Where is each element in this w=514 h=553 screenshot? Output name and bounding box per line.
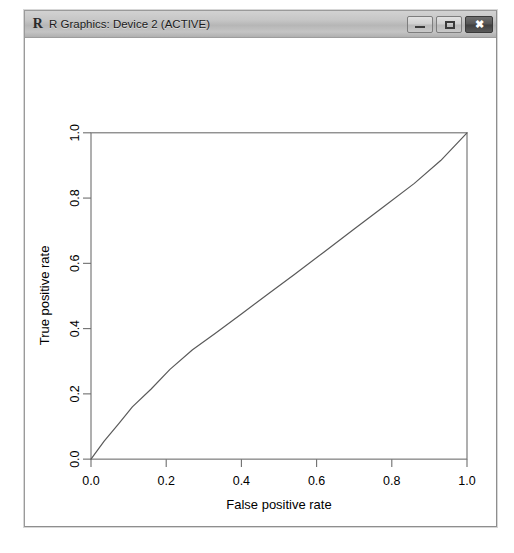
close-button[interactable]: ✖ (465, 16, 493, 33)
r-graphics-window: R R Graphics: Device 2 (ACTIVE) ✖ 0.00.2… (24, 10, 497, 527)
y-axis-tick-labels: 0.00.20.40.60.81.0 (68, 124, 82, 468)
x-tick-label: 0.2 (158, 474, 175, 488)
x-axis-label: False positive rate (226, 497, 331, 512)
close-icon: ✖ (466, 17, 492, 32)
graphics-device-canvas[interactable]: 0.00.20.40.60.81.0 0.00.20.40.60.81.0 Fa… (25, 38, 496, 526)
y-tick-label: 0.4 (68, 320, 82, 337)
x-axis-tick-labels: 0.00.20.40.60.81.0 (82, 474, 475, 488)
plot-frame (91, 133, 467, 459)
y-tick-label: 0.0 (68, 450, 82, 467)
y-tick-label: 0.6 (68, 255, 82, 272)
y-tick-label: 0.8 (68, 189, 82, 206)
x-tick-label: 0.6 (308, 474, 325, 488)
y-axis-label: True positive rate (37, 246, 52, 346)
maximize-icon (445, 21, 455, 29)
minimize-icon (415, 26, 425, 28)
window-title-bar[interactable]: R R Graphics: Device 2 (ACTIVE) ✖ (25, 11, 496, 38)
x-tick-label: 0.0 (82, 474, 99, 488)
window-controls: ✖ (407, 16, 493, 33)
roc-plot: 0.00.20.40.60.81.0 0.00.20.40.60.81.0 Fa… (25, 38, 496, 526)
x-tick-label: 0.8 (383, 474, 400, 488)
maximize-button[interactable] (436, 16, 462, 33)
roc-curve-line (91, 133, 467, 459)
x-axis-ticks (91, 459, 467, 467)
y-tick-label: 1.0 (68, 124, 82, 141)
r-logo-icon: R (30, 16, 45, 32)
y-tick-label: 0.2 (68, 385, 82, 402)
r-logo-glyph: R (30, 16, 45, 32)
window-title: R Graphics: Device 2 (ACTIVE) (49, 18, 407, 30)
plot-box (91, 133, 467, 459)
x-tick-label: 1.0 (458, 474, 475, 488)
minimize-button[interactable] (407, 16, 433, 33)
x-tick-label: 0.4 (233, 474, 250, 488)
y-axis-ticks (83, 133, 91, 459)
